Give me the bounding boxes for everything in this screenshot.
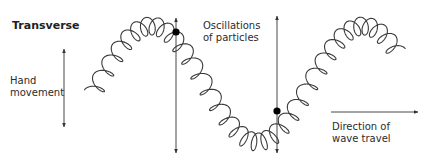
- particle-dot-2: [273, 107, 280, 114]
- diagram-title: Transverse: [12, 19, 80, 32]
- hand-movement-label-line2: movement: [10, 87, 64, 99]
- particle-dot-1: [172, 28, 179, 35]
- direction-label: Direction of wave travel: [332, 121, 391, 145]
- direction-label-line2: wave travel: [332, 133, 391, 145]
- hand-movement-label: Hand movement: [10, 75, 64, 99]
- hand-movement-label-line1: Hand: [10, 75, 64, 87]
- oscillations-label: Oscillations of particles: [203, 20, 260, 44]
- oscillations-label-line2: of particles: [203, 32, 260, 44]
- direction-label-line1: Direction of: [332, 121, 391, 133]
- oscillations-label-line1: Oscillations: [203, 20, 260, 32]
